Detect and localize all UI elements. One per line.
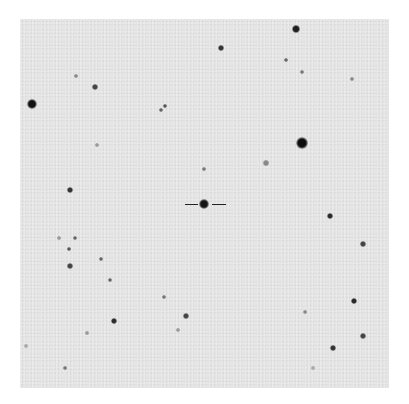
star [73,236,77,240]
star [292,25,300,33]
star [218,45,224,51]
star [162,295,166,299]
star [27,99,37,109]
star [350,77,354,81]
target-marker-right [212,204,226,205]
star [183,313,189,319]
star [67,247,71,251]
star [303,310,307,314]
star [57,236,61,240]
star [92,84,98,90]
target-star [199,199,209,209]
star [24,344,28,348]
star [67,263,73,269]
star [327,213,333,219]
star [163,104,167,108]
star [330,345,336,351]
star [95,143,99,147]
star [111,318,117,324]
star [74,74,78,78]
star [63,366,67,370]
star [108,278,112,282]
star [85,331,89,335]
star [296,137,308,149]
target-marker-left [185,204,198,205]
star [67,187,73,193]
star [99,257,103,261]
star [263,160,269,166]
star [159,108,163,112]
star [202,167,206,171]
star [300,70,304,74]
star [311,366,315,370]
star [351,298,357,304]
star [284,58,288,62]
star [360,333,366,339]
star [176,328,180,332]
star [360,241,366,247]
